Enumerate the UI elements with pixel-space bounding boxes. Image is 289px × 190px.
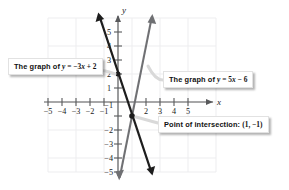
callout-point-prefix: Point of intersection: (164, 120, 242, 129)
callout-point-value: (1, −1) (242, 120, 262, 129)
x-tick-labels-positive: 2 3 4 5 (144, 107, 190, 116)
x-tick-label: 2 (144, 107, 148, 116)
callout-tail-right (148, 66, 163, 80)
y-tick-label: 3 (107, 56, 111, 65)
x-axis-arrow (206, 99, 213, 105)
callout-tail-point (136, 117, 158, 123)
x-axis-label: x (216, 97, 221, 107)
callout-point-of-intersection: Point of intersection: (1, −1) (158, 116, 269, 133)
y-axis-label: y (121, 5, 126, 15)
graph-svg: x y −5 −4 −3 −2 −1 2 3 4 5 5 4 3 2 1 −1 … (0, 0, 289, 190)
x-tick-label: 5 (186, 107, 190, 116)
y-tick-label: −4 (104, 154, 113, 163)
intersection-point (129, 113, 135, 119)
figure-coordinate-plane: x y −5 −4 −3 −2 −1 2 3 4 5 5 4 3 2 1 −1 … (0, 0, 289, 190)
x-tick-label: 3 (158, 107, 162, 116)
x-tick-label: −2 (86, 107, 95, 116)
x-tick-label: −3 (72, 107, 81, 116)
x-tick-label: −5 (44, 107, 53, 116)
grid-lines (48, 18, 216, 172)
y-tick-label: 1 (107, 84, 111, 93)
callout-left-prefix: The graph of (14, 62, 62, 71)
y-tick-label: −2 (104, 126, 113, 135)
y-tick-label: 5 (107, 28, 111, 37)
callout-left-tail: + 2 (85, 62, 97, 71)
x-tick-labels-negative: −5 −4 −3 −2 −1 (44, 107, 109, 116)
callout-right-prefix: The graph of (169, 75, 217, 84)
x-tick-label: 4 (172, 107, 176, 116)
line-y-equals-5x-minus-6 (115, 14, 156, 180)
callout-right-tail: − 6 (236, 75, 248, 84)
y-tick-label: −1 (104, 101, 113, 110)
callout-graph-of-5x-minus-6: The graph of y = 5x − 6 (163, 71, 253, 88)
y-tick-label: −5 (104, 168, 113, 177)
x-tick-label: −4 (58, 107, 67, 116)
callout-graph-of-minus-3x-plus-2: The graph of y = −3x + 2 (8, 58, 103, 75)
y-tick-label: −3 (104, 140, 113, 149)
